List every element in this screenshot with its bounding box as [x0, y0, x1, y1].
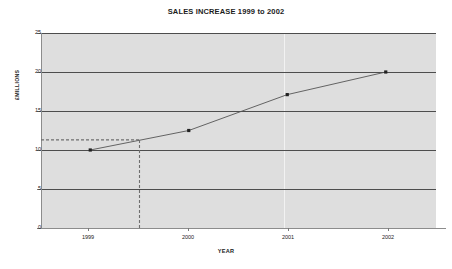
y-axis-line [41, 33, 42, 229]
x-tick-mark-2001 [288, 228, 289, 231]
gridline-20 [42, 72, 436, 73]
x-tick-label-1999: 1999 [68, 234, 108, 240]
gridline-5 [42, 189, 436, 190]
gridline-15 [42, 111, 436, 112]
plot-light-vertical-line [284, 33, 285, 228]
chart-title: SALES INCREASE 1999 to 2002 [0, 7, 452, 16]
y-tick-label-10: 10 [23, 147, 41, 153]
x-axis-title: YEAR [0, 248, 452, 254]
y-tick-label-5: 5 [23, 186, 41, 192]
x-tick-mark-2000 [188, 228, 189, 231]
y-tick-label-25: 25 [23, 30, 41, 36]
x-tick-mark-2002 [388, 228, 389, 231]
gridline-10 [42, 150, 436, 151]
x-tick-mark-1999 [88, 228, 89, 231]
x-tick-label-2001: 2001 [268, 234, 308, 240]
chart-figure: SALES INCREASE 1999 to 2002 25 20 15 10 … [0, 0, 452, 269]
x-tick-label-2002: 2002 [368, 234, 408, 240]
x-tick-label-2000: 2000 [168, 234, 208, 240]
y-tick-label-20: 20 [23, 69, 41, 75]
y-tick-label-15: 15 [23, 108, 41, 114]
y-axis-title: £MILLIONS [14, 40, 20, 100]
gridline-25 [42, 33, 436, 34]
plot-area [41, 33, 436, 228]
